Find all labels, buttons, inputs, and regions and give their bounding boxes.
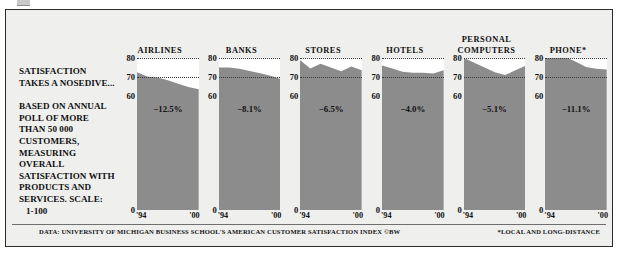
x-axis: '94'00 [464,211,526,225]
y-tick-label: 60 [535,92,544,101]
y-tick-label: 0 [539,206,543,215]
y-tick-label: 80 [535,54,544,63]
footer-divider [12,224,606,225]
panel-plot-area: 8070600 [527,58,609,210]
y-axis: 8070600 [364,58,381,210]
area-plot [464,58,526,210]
chart-panel: HOTELS8070600−4.0%'94'00 [364,28,446,228]
x-axis: '94'00 [219,211,281,225]
y-axis: 8070600 [119,58,136,210]
x-tick-label: '00 [516,211,526,220]
x-tick-label: '00 [598,211,608,220]
panel-strip: AIRLINES8070600−12.5%'94'00BANKS8070600−… [119,28,609,228]
x-axis: '94'00 [382,211,444,225]
gridline [219,77,281,78]
panel-plot-area: 8070600 [364,58,446,210]
x-axis: '94'00 [300,211,362,225]
panel-plot-area: 8070600 [446,58,528,210]
chart-frame: SATISFACTION TAKES A NOSEDIVE... BASED O… [5,9,613,247]
change-label: −4.0% [382,104,444,114]
panel-plot-area: 8070600 [201,58,283,210]
chart-panel: AIRLINES8070600−12.5%'94'00 [119,28,201,228]
caption-scale: 1-100 [19,206,117,218]
y-tick-label: 0 [457,206,461,215]
area-fill [137,72,199,210]
caption-headline: SATISFACTION TAKES A NOSEDIVE... [19,66,117,89]
y-axis: 8070600 [527,58,544,210]
area-fill [545,58,607,210]
area-plot [137,58,199,210]
y-tick-label: 70 [290,73,299,82]
chart-footer: DATA: UNIVERSITY OF MICHIGAN BUSINESS SC… [12,227,606,241]
area-plot [545,58,607,210]
scan-artifact [17,0,30,6]
y-tick-label: 70 [126,73,135,82]
change-label: −6.5% [300,104,362,114]
gridline [300,58,362,59]
y-tick-label: 60 [453,92,462,101]
x-axis: '94'00 [137,211,199,225]
x-tick-label: '00 [353,211,363,220]
y-axis: 8070600 [446,58,463,210]
gridline [545,77,607,78]
y-tick-label: 0 [131,206,135,215]
area-fill [219,68,281,211]
caption-block: SATISFACTION TAKES A NOSEDIVE... BASED O… [19,66,117,217]
footer-source: DATA: UNIVERSITY OF MICHIGAN BUSINESS SC… [39,228,400,235]
gridline [464,58,526,59]
gridline [137,77,199,78]
change-label: −12.5% [137,104,199,114]
y-tick-label: 80 [290,54,299,63]
y-tick-label: 0 [376,206,380,215]
y-tick-label: 60 [126,92,135,101]
area-fill [464,58,526,210]
caption-body: BASED ON ANNUAL POLL OF MORE THAN 50 000… [19,101,117,217]
footer-note: *LOCAL AND LONG-DISTANCE [498,228,600,235]
chart-figure: SATISFACTION TAKES A NOSEDIVE... BASED O… [0,0,618,255]
chart-panel: PERSONAL COMPUTERS8070600−5.1%'94'00 [446,28,528,228]
y-tick-label: 60 [290,92,299,101]
y-tick-label: 60 [208,92,217,101]
gridline [545,58,607,59]
y-axis: 8070600 [282,58,299,210]
y-axis: 8070600 [201,58,218,210]
x-tick-label: '94 [218,211,228,220]
y-tick-label: 80 [371,54,380,63]
y-tick-label: 80 [208,54,217,63]
gridline [464,77,526,78]
area-fill [382,66,444,210]
area-plot [219,58,281,210]
x-tick-label: '00 [271,211,281,220]
panel-plot-area: 8070600 [282,58,364,210]
y-tick-label: 60 [371,92,380,101]
area-plot [300,58,362,210]
x-tick-label: '94 [136,211,146,220]
y-tick-label: 70 [535,73,544,82]
gridline [382,77,444,78]
gridline [300,77,362,78]
area-fill [300,60,362,210]
x-tick-label: '94 [544,211,554,220]
panel-plot-area: 8070600 [119,58,201,210]
x-axis: '94'00 [545,211,607,225]
chart-panel: PHONE*8070600−11.1%'94'00 [527,28,609,228]
caption-body-text: BASED ON ANNUAL POLL OF MORE THAN 50 000… [19,101,115,204]
x-tick-label: '00 [434,211,444,220]
x-tick-label: '94 [381,211,391,220]
change-label: −5.1% [464,104,526,114]
gridline [219,58,281,59]
chart-panel: BANKS8070600−8.1%'94'00 [201,28,283,228]
change-label: −8.1% [219,104,281,114]
y-tick-label: 0 [294,206,298,215]
gridline [382,58,444,59]
x-tick-label: '94 [463,211,473,220]
y-tick-label: 70 [371,73,380,82]
y-tick-label: 80 [453,54,462,63]
gridline [137,58,199,59]
x-tick-label: '00 [189,211,199,220]
area-plot [382,58,444,210]
y-tick-label: 70 [208,73,217,82]
x-tick-label: '94 [299,211,309,220]
chart-panel: STORES8070600−6.5%'94'00 [282,28,364,228]
y-tick-label: 80 [126,54,135,63]
